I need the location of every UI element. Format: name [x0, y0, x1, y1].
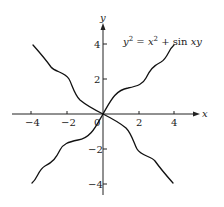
curve-upper-left — [33, 45, 103, 114]
x-tick-label: −4 — [25, 117, 40, 128]
implicit-curve-plot: −4 −2 0 2 4 4 2 −2 −4 x y y2 = x2 + sin … — [0, 0, 224, 207]
x-axis-arrow-icon — [193, 112, 200, 117]
equation-label: y2 = x2 + sin xy — [122, 35, 202, 47]
y-axis-label: y — [99, 12, 106, 23]
x-tick-label: −2 — [61, 117, 76, 128]
y-tick-label: −2 — [88, 144, 103, 155]
y-tick-label: −4 — [88, 179, 103, 190]
origin-label: 0 — [94, 117, 100, 128]
curve-upper-right — [103, 45, 174, 114]
x-tick-label: 4 — [171, 117, 177, 128]
y-tick-label: 2 — [94, 74, 100, 85]
y-tick-label: 4 — [94, 39, 100, 50]
x-tick-label: 2 — [136, 117, 142, 128]
y-axis-arrow-icon — [101, 23, 106, 30]
x-axis-label: x — [202, 108, 208, 119]
